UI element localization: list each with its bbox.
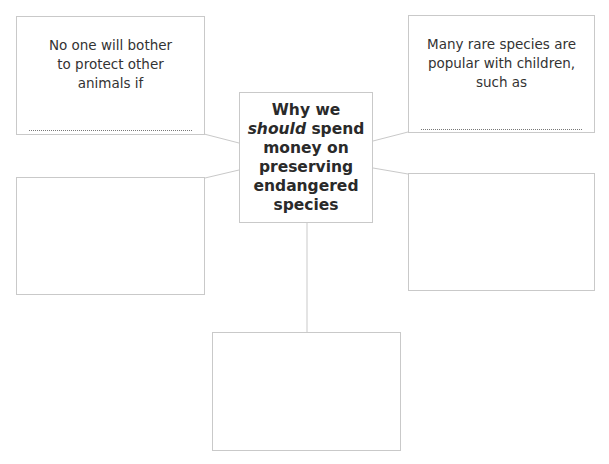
central-topic-box: Why we should spend money on preserving … — [239, 92, 373, 223]
central-topic-text: Why we should spend money on preserving … — [248, 101, 365, 215]
emphasis-should: should — [248, 120, 306, 138]
box-middle-left[interactable] — [16, 177, 205, 295]
box-bottom[interactable] — [212, 332, 401, 451]
answer-line-top-left[interactable] — [29, 130, 192, 131]
answer-line-top-right[interactable] — [421, 129, 582, 130]
connector-middle-left — [205, 170, 239, 178]
box-top-left[interactable]: No one will bother to protect other anim… — [16, 16, 205, 135]
box-top-left-prompt: No one will bother to protect other anim… — [17, 36, 204, 93]
connector-top-left — [204, 134, 239, 143]
box-top-right-prompt: Many rare species are popular with child… — [409, 35, 594, 92]
box-top-right[interactable]: Many rare species are popular with child… — [408, 15, 595, 133]
box-middle-right[interactable] — [408, 173, 595, 291]
connector-top-right — [373, 132, 408, 141]
connector-middle-right — [373, 168, 408, 174]
